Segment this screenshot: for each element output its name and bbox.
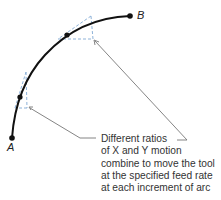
increment-point-upper [64, 32, 69, 37]
caption-text: Different ratios of X and Y motion combi… [101, 133, 215, 194]
point-b-label: B [137, 9, 144, 21]
caption-line-4: at the specified feed rate [101, 170, 215, 182]
tool-arc [12, 16, 130, 138]
leader-line-right [94, 40, 187, 140]
increment-point-lower [17, 94, 22, 99]
xy-motion-triangle-upper [58, 16, 93, 39]
point-a-marker [9, 135, 15, 141]
point-a-label: A [7, 141, 14, 153]
leader-line-left [29, 107, 96, 138]
xy-motion-triangle-lower [15, 72, 27, 108]
caption-line-1: Different ratios [101, 133, 215, 145]
caption-line-5: at each increment of arc [101, 182, 215, 194]
caption-line-3: combine to move the tool [101, 158, 215, 170]
point-b-marker [127, 13, 133, 19]
caption-line-2: of X and Y motion [101, 145, 215, 157]
